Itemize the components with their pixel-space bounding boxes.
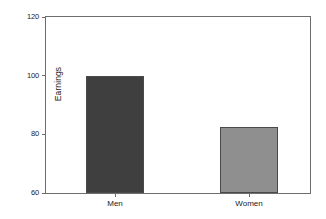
y-tick-label: 120 xyxy=(27,12,39,21)
y-tick-label: 100 xyxy=(27,71,39,80)
bar-women xyxy=(220,127,278,193)
x-tick-mark xyxy=(249,193,250,197)
x-tick-label: Women xyxy=(199,199,299,208)
y-tick-label: 60 xyxy=(31,188,39,197)
bar-men xyxy=(86,76,144,193)
y-tick-mark xyxy=(42,75,46,76)
y-tick-label: 80 xyxy=(31,129,39,138)
x-tick-mark xyxy=(115,193,116,197)
y-tick-mark xyxy=(42,17,46,18)
y-tick-mark xyxy=(42,134,46,135)
plot-area: Earnings 60 80 100 120 Men Women xyxy=(45,16,311,194)
x-tick-label: Men xyxy=(65,199,165,208)
y-axis-label: Earnings xyxy=(53,24,63,144)
bar-chart-figure: Earnings 60 80 100 120 Men Women xyxy=(0,0,326,219)
y-tick-mark xyxy=(42,193,46,194)
